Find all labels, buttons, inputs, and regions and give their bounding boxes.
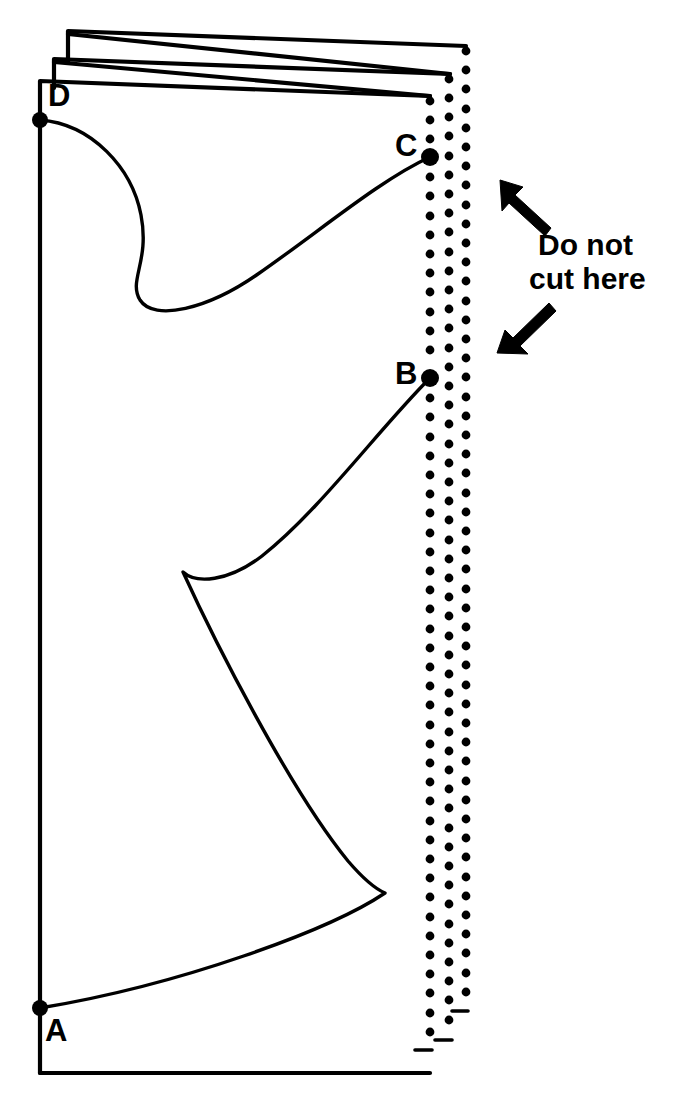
vertex-dot-b — [421, 369, 439, 387]
sheet-back-outline — [68, 31, 466, 62]
perf-column-inner — [426, 97, 435, 1037]
sheet-stack — [40, 31, 466, 1073]
arrow-lower-left-icon — [497, 303, 556, 354]
cut-lines — [40, 120, 430, 1008]
point-label-b: B — [395, 358, 417, 389]
folded-paper-cutting-diagram: A B C D Do not cut here — [0, 0, 677, 1114]
vertex-dot-c — [421, 148, 439, 166]
do-not-cut-here-caption: Do not cut here — [538, 228, 646, 295]
perf-column-middle — [445, 75, 454, 1025]
point-label-d: D — [48, 80, 70, 111]
cut-curve-b-to-a — [40, 378, 430, 1008]
point-label-c: C — [395, 130, 417, 161]
diagram-canvas — [0, 0, 677, 1114]
vertex-dots — [32, 112, 439, 1016]
cut-curve-d-to-c — [40, 120, 430, 311]
caption-line-2: cut here — [529, 262, 646, 296]
vertex-dot-d — [32, 112, 48, 128]
perf-column-outer — [462, 47, 471, 997]
point-label-a: A — [45, 1015, 67, 1046]
sheet-front-outline — [40, 81, 430, 1073]
perforation-dots — [415, 47, 470, 1050]
caption-line-1: Do not — [538, 228, 646, 262]
